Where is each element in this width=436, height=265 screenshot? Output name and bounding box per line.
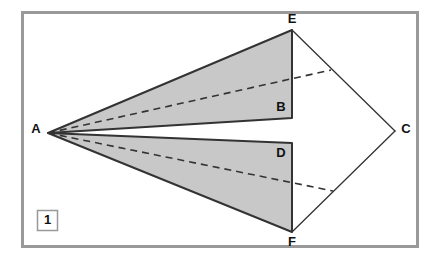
vertex-label-C: C	[401, 121, 411, 136]
figure-number-label: 1	[44, 212, 51, 227]
vertex-label-D: D	[276, 145, 285, 160]
vertex-label-E: E	[288, 11, 297, 26]
vertex-label-F: F	[288, 234, 296, 249]
figure-container: A B C D E F 1	[0, 0, 436, 265]
vertex-label-A: A	[31, 121, 41, 136]
geometry-diagram: A B C D E F 1	[0, 0, 436, 265]
vertex-label-B: B	[276, 99, 285, 114]
